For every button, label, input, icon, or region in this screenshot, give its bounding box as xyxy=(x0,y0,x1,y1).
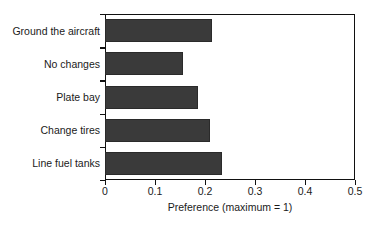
category-label: Ground the aircraft xyxy=(0,25,100,37)
x-axis-tick-label: 0.4 xyxy=(285,185,325,197)
category-label: Change tires xyxy=(0,124,100,136)
bar xyxy=(105,119,210,142)
x-axis-tick-label: 0 xyxy=(85,185,125,197)
x-axis-title: Preference (maximum = 1) xyxy=(105,201,355,214)
y-axis-tick xyxy=(100,14,106,15)
x-axis-tick-label: 0.2 xyxy=(185,185,225,197)
x-axis-tick-label: 0.1 xyxy=(135,185,175,197)
bar xyxy=(105,152,222,175)
y-axis-tick xyxy=(100,80,106,81)
bar xyxy=(105,86,198,109)
category-label: Plate bay xyxy=(0,91,100,103)
bar xyxy=(105,19,212,42)
x-axis-tick-label: 0.3 xyxy=(235,185,275,197)
y-axis-tick xyxy=(100,114,106,115)
y-axis-tick xyxy=(100,147,106,148)
bar xyxy=(105,52,183,75)
x-axis-tick-label: 0.5 xyxy=(335,185,374,197)
bar-chart: Ground the aircraftNo changesPlate bayCh… xyxy=(0,0,374,225)
y-axis-tick xyxy=(100,47,106,48)
category-label: Line fuel tanks xyxy=(0,157,100,169)
category-label: No changes xyxy=(0,58,100,70)
